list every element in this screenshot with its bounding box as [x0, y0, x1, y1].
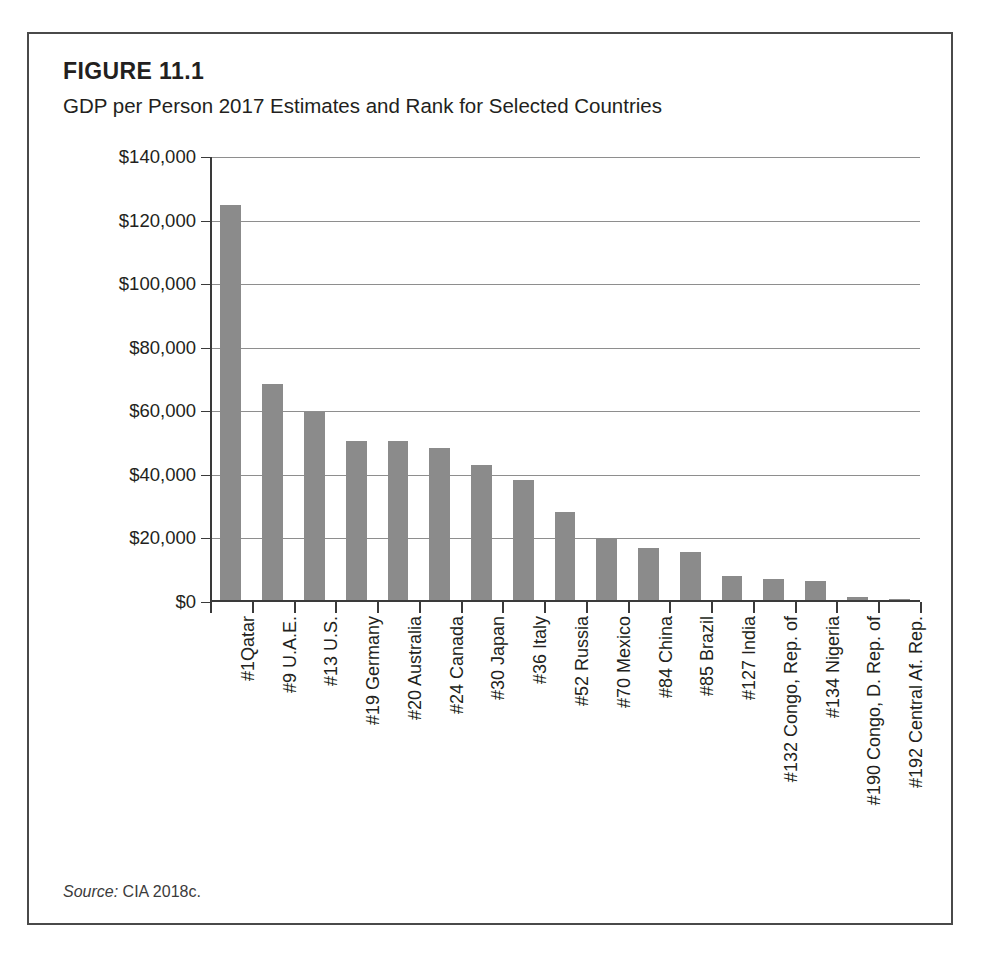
x-axis-label: #52 Russia: [572, 616, 593, 706]
y-axis-tick: [201, 284, 210, 285]
source-label: Source:: [63, 883, 118, 900]
x-axis-label-text: #52 Russia: [572, 616, 593, 706]
y-axis-tick: [201, 538, 210, 539]
x-axis-label: #20 Australia: [405, 616, 426, 720]
x-axis-label: #36 Italy: [530, 616, 551, 684]
x-axis-tick: [920, 602, 922, 613]
x-axis-label: #13 U.S.: [321, 616, 342, 686]
bar: [346, 441, 367, 602]
y-axis-tick: [201, 157, 210, 158]
x-axis-label-text: #70 Mexico: [614, 616, 635, 708]
y-axis-tick-label: $40,000: [129, 464, 196, 486]
x-axis-label-text: #190 Congo, D. Rep. of: [864, 616, 885, 805]
x-axis-label: #190 Congo, D. Rep. of: [864, 616, 885, 805]
bar: [805, 581, 826, 602]
bar-chart: $0$20,000$40,000$60,000$80,000$100,000$1…: [29, 34, 951, 923]
x-axis-label: #85 Brazil: [697, 616, 718, 696]
bar: [471, 465, 492, 602]
x-axis-label: #132 Congo, Rep. of: [781, 616, 802, 782]
x-axis-label: #24 Canada: [447, 616, 468, 714]
x-axis-label: #70 Mexico: [614, 616, 635, 708]
y-axis-tick: [201, 602, 210, 603]
bar: [722, 576, 743, 602]
y-axis-tick: [201, 411, 210, 412]
x-axis-label-text: #24 Canada: [447, 616, 468, 714]
x-axis-label-text: #132 Congo, Rep. of: [781, 616, 802, 782]
bar: [220, 205, 241, 602]
bars-layer: [210, 157, 920, 602]
y-axis-tick: [201, 348, 210, 349]
y-axis-tick: [201, 221, 210, 222]
y-axis-tick-label: $0: [175, 591, 196, 613]
x-axis-label-text: #84 China: [656, 616, 677, 698]
bar: [304, 412, 325, 602]
x-axis-label-text: #127 India: [739, 616, 760, 700]
x-axis-label-text: #36 Italy: [530, 616, 551, 684]
bar: [513, 480, 534, 602]
x-axis-label-text: #20 Australia: [405, 616, 426, 720]
plot-area: $0$20,000$40,000$60,000$80,000$100,000$1…: [210, 157, 920, 602]
source-note: Source: CIA 2018c.: [63, 883, 201, 901]
y-axis-tick-label: $20,000: [129, 527, 196, 549]
figure-container: FIGURE 11.1 GDP per Person 2017 Estimate…: [27, 32, 953, 925]
x-axis-label: #19 Germany: [363, 616, 384, 725]
x-axis-labels: #1Qatar#9 U.A.E.#13 U.S.#19 Germany#20 A…: [210, 602, 920, 902]
x-axis-label: #84 China: [656, 616, 677, 698]
x-axis-label-text: #192 Central Af. Rep.: [906, 616, 927, 788]
x-axis-label-text: #1Qatar: [238, 616, 259, 681]
x-axis-label-text: #19 Germany: [363, 616, 384, 725]
bar: [262, 384, 283, 602]
y-axis-tick-label: $80,000: [129, 337, 196, 359]
source-value: CIA 2018c.: [123, 883, 201, 900]
y-axis-tick-label: $60,000: [129, 400, 196, 422]
x-axis-label-text: #13 U.S.: [321, 616, 342, 686]
x-axis-label: #192 Central Af. Rep.: [906, 616, 927, 788]
y-axis-tick-label: $120,000: [119, 210, 196, 232]
x-axis-label-text: #85 Brazil: [697, 616, 718, 696]
bar: [555, 512, 576, 602]
y-axis-tick-label: $100,000: [119, 273, 196, 295]
bar: [596, 538, 617, 602]
y-axis-tick: [201, 475, 210, 476]
x-axis-label: #30 Japan: [488, 616, 509, 700]
bar: [388, 441, 409, 602]
x-axis-label: #127 India: [739, 616, 760, 700]
x-axis-label: #1Qatar: [238, 616, 259, 681]
bar: [638, 548, 659, 602]
x-axis-label-text: #134 Nigeria: [823, 616, 844, 718]
x-axis-label-text: #9 U.A.E.: [280, 616, 301, 693]
x-axis-label-text: #30 Japan: [488, 616, 509, 700]
bar: [763, 579, 784, 602]
x-axis-label: #9 U.A.E.: [280, 616, 301, 693]
bar: [429, 448, 450, 602]
y-axis-tick-label: $140,000: [119, 146, 196, 168]
x-axis-label: #134 Nigeria: [823, 616, 844, 718]
bar: [680, 552, 701, 602]
